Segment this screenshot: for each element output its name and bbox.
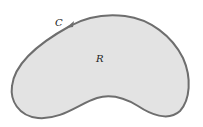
region-diagram: C R: [0, 0, 203, 127]
closed-curve-c: [12, 15, 189, 118]
curve-label: C: [55, 17, 63, 28]
region-label: R: [95, 53, 104, 64]
